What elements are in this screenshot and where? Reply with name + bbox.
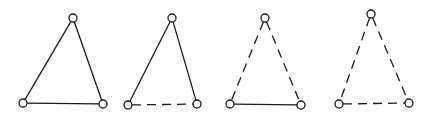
triangle-4-bottom-right-node: [405, 99, 413, 107]
triangle-2-right-edge-solid: [173, 22, 196, 100]
triangle-3-bottom-left-node: [226, 100, 234, 108]
triangle-1-apex-node: [69, 14, 77, 22]
triangle-2-base-edge-dashed: [132, 104, 193, 105]
triangle-4-base-edge-dashed: [343, 103, 405, 104]
triangle-2-left-edge-solid: [130, 22, 170, 102]
triangle-3: [226, 14, 305, 109]
triangle-2-apex-node: [168, 14, 176, 22]
triangle-2: [124, 14, 201, 109]
triangle-1-base-edge-solid: [27, 103, 99, 104]
triangle-2-bottom-right-node: [193, 100, 201, 108]
triangle-4-bottom-left-node: [335, 100, 343, 108]
triangle-4-apex-node: [367, 10, 375, 18]
triangle-1-bottom-right-node: [99, 100, 107, 108]
triangle-1-right-edge-solid: [74, 22, 101, 100]
triangle-diagram: [0, 0, 433, 116]
triangle-1-left-edge-solid: [25, 21, 71, 99]
triangle-4-left-edge-dashed: [340, 18, 369, 100]
triangle-4-right-edge-dashed: [373, 18, 408, 100]
triangle-3-left-edge-dashed: [232, 22, 264, 101]
triangle-4: [335, 10, 413, 108]
triangle-1-bottom-left-node: [19, 99, 27, 107]
triangle-3-apex-node: [261, 14, 269, 22]
triangle-1: [19, 14, 107, 108]
triangle-3-bottom-right-node: [297, 101, 305, 109]
triangle-2-bottom-left-node: [124, 101, 132, 109]
triangle-3-right-edge-dashed: [267, 22, 300, 102]
triangle-3-base-edge-solid: [234, 104, 297, 105]
